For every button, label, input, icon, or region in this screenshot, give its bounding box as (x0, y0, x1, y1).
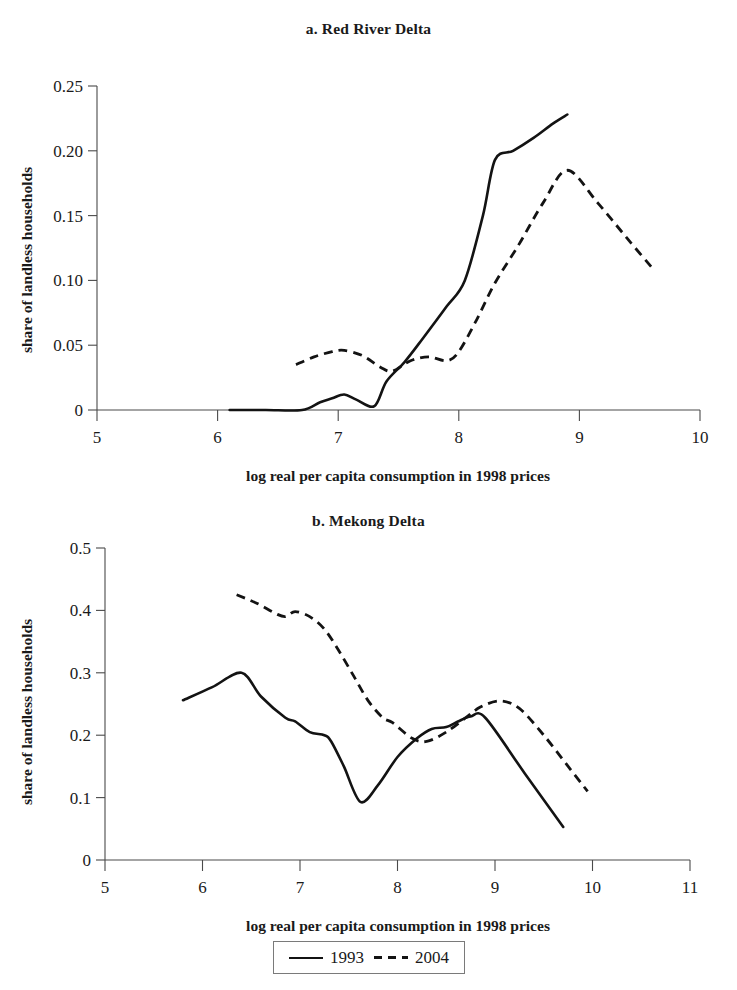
chart-b-ytick-2: 0.2 (70, 726, 91, 745)
chart-a-xlabel: log real per capita consumption in 1998 … (246, 467, 550, 484)
chart-b-xlabel: log real per capita consumption in 1998 … (246, 917, 550, 934)
chart-a-ytick-0: 0 (75, 401, 84, 420)
chart-a-ytick-3: 0.15 (53, 207, 83, 226)
panel-b-title: b. Mekong Delta (0, 508, 737, 530)
chart-b-xtick-1: 6 (198, 878, 207, 897)
chart-a-xtick-2: 7 (334, 428, 343, 447)
chart-b-x-ticks: 5 6 7 8 9 10 11 (101, 860, 698, 897)
panel-mekong-delta: b. Mekong Delta share of landless househ… (0, 508, 737, 970)
legend-label-1993: 1993 (330, 948, 364, 968)
chart-a-ytick-2: 0.10 (53, 271, 83, 290)
figure-landless-households: a. Red River Delta share of landless hou… (0, 0, 737, 990)
panel-red-river-delta: a. Red River Delta share of landless hou… (0, 0, 737, 508)
chart-a-ytick-4: 0.20 (53, 142, 83, 161)
chart-b-xtick-3: 8 (393, 878, 402, 897)
solid-line-icon (289, 957, 323, 959)
chart-a-y-ticks: 0.25 0.20 0.15 0.10 0.05 0 (53, 77, 97, 420)
chart-b-xtick-4: 9 (491, 878, 500, 897)
chart-a-svg: share of landless households 0.25 0.20 0… (0, 38, 737, 508)
chart-b-ytick-1: 0.1 (70, 789, 91, 808)
chart-b-y-ticks: 0.5 0.4 0.3 0.2 0.1 0 (70, 539, 105, 870)
chart-a-ytick-1: 0.05 (53, 336, 83, 355)
dashed-line-icon (374, 956, 408, 959)
panel-a-title: a. Red River Delta (0, 0, 737, 38)
chart-a-ytick-5: 0.25 (53, 77, 83, 96)
chart-b-series-2004 (237, 595, 588, 792)
chart-a-x-ticks: 5 6 7 8 9 10 (93, 410, 709, 447)
chart-b-ylabel: share of landless households (18, 619, 35, 805)
chart-b-ytick-3: 0.3 (70, 664, 91, 683)
chart-b-xtick-5: 10 (584, 878, 601, 897)
chart-a-xtick-1: 6 (213, 428, 222, 447)
legend: 1993 2004 (273, 941, 465, 974)
legend-entry-1993: 1993 (289, 948, 364, 968)
chart-a-xtick-5: 10 (692, 428, 709, 447)
chart-a-xtick-4: 9 (575, 428, 584, 447)
legend-entry-2004: 2004 (374, 948, 449, 968)
chart-b-xtick-6: 11 (682, 878, 698, 897)
chart-b-xtick-0: 5 (101, 878, 110, 897)
chart-b-svg: share of landless households 0.5 0.4 0.3… (0, 530, 737, 970)
chart-a-ylabel: share of landless households (18, 167, 35, 353)
chart-b-ytick-0: 0 (83, 851, 92, 870)
chart-a-series-2004 (296, 170, 652, 371)
chart-b-series-1993 (183, 673, 563, 827)
chart-b-xtick-2: 7 (296, 878, 305, 897)
legend-label-2004: 2004 (415, 948, 449, 968)
chart-a-xtick-3: 8 (455, 428, 464, 447)
panel-b-plot: share of landless households 0.5 0.4 0.3… (0, 530, 737, 970)
chart-a-series-1993 (230, 115, 568, 411)
panel-a-plot: share of landless households 0.25 0.20 0… (0, 38, 737, 508)
chart-b-ytick-4: 0.4 (70, 601, 92, 620)
chart-a-xtick-0: 5 (93, 428, 102, 447)
chart-b-ytick-5: 0.5 (70, 539, 91, 558)
